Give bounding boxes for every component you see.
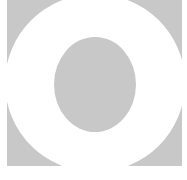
gray-oval-center [54,37,136,132]
